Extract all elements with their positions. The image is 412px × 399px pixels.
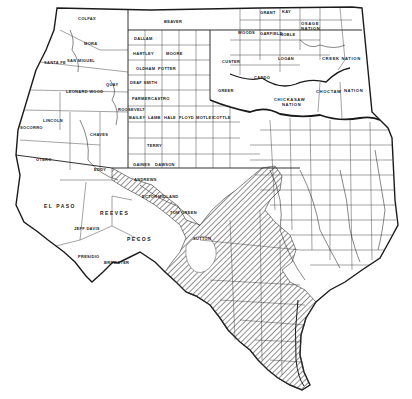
label-eddy: EDDY bbox=[94, 168, 106, 172]
label-beaver: BEAVER bbox=[164, 20, 182, 24]
label-greer: GREER bbox=[218, 89, 234, 93]
label-leonard-wood: LEONARD WOOD bbox=[66, 90, 103, 94]
label-lamb: LAMB bbox=[148, 116, 161, 120]
label-castro: CASTRO bbox=[151, 97, 170, 101]
label-caddo: CADDO bbox=[254, 76, 270, 80]
label-custer: CUSTER bbox=[222, 60, 240, 64]
label-colfax: COLFAX bbox=[78, 17, 96, 21]
label-moore: MOORE bbox=[166, 52, 183, 56]
label-pecos: PECOS bbox=[127, 237, 152, 242]
land-outline bbox=[16, 7, 398, 390]
label-jeff-davis: JEFF DAVIS bbox=[74, 227, 100, 231]
label-midland: MIDLAND bbox=[158, 195, 179, 199]
label-hale: HALE bbox=[164, 116, 176, 120]
label-grant: GRANT bbox=[260, 11, 276, 15]
label-logan: LOGAN bbox=[278, 57, 294, 61]
label-deaf-smith: DEAF SMITH bbox=[130, 81, 157, 85]
label-gaines: GAINES bbox=[133, 163, 150, 167]
label-creek-nation: CREEK NATION bbox=[322, 57, 361, 61]
label-cottle: COTTLE bbox=[213, 116, 231, 120]
label-terry: TERRY bbox=[147, 144, 162, 148]
label-reeves: REEVES bbox=[100, 211, 129, 216]
label-noble: NOBLE bbox=[280, 33, 296, 37]
label-chaves: CHAVES bbox=[90, 133, 108, 137]
label-ector: ECTOR bbox=[142, 195, 157, 199]
label-otero: OTERO bbox=[36, 158, 52, 162]
label-osage-nation: NATION bbox=[301, 27, 320, 31]
label-tom-green: TOM GREEN bbox=[170, 211, 197, 215]
label-presidio: PRESIDIO bbox=[78, 255, 100, 259]
label-woods: WOODS bbox=[238, 31, 255, 35]
label-socorro: SOCORRO bbox=[20, 126, 43, 130]
label-hartley: HARTLEY bbox=[133, 52, 154, 56]
label-san-miguel: SAN MIGUEL bbox=[67, 59, 95, 63]
label-roosevelt: ROOSEVELT bbox=[118, 108, 145, 112]
label-el-paso: EL PASO bbox=[44, 204, 76, 209]
label-dallam: DALLAM bbox=[134, 37, 153, 41]
label-sutton: SUTTON bbox=[193, 237, 211, 241]
label-quay: QUAY bbox=[106, 83, 118, 87]
label-dawson: DAWSON bbox=[155, 163, 175, 167]
label-choctaw-nation: NATION bbox=[344, 89, 363, 93]
map-container: CREEK NATION CHOCTAW NATION CHICKASAW NA… bbox=[0, 0, 412, 399]
label-parmer: PARMER bbox=[132, 97, 151, 101]
label-kay: KAY bbox=[282, 10, 291, 14]
label-oldham: OLDHAM bbox=[136, 67, 155, 71]
label-potter: POTTER bbox=[158, 67, 176, 71]
label-lincoln: LINCOLN bbox=[43, 119, 63, 123]
label-santa-fe: SANTA FE bbox=[44, 61, 66, 65]
label-chickasaw-nation: NATION bbox=[282, 103, 301, 107]
label-andrews: ANDREWS bbox=[134, 178, 157, 182]
label-motley: MOTLEY bbox=[196, 116, 214, 120]
label-mora: MORA bbox=[84, 42, 97, 46]
label-choctaw: CHOCTAW bbox=[316, 90, 342, 94]
label-brewster: BREWSTER bbox=[104, 261, 129, 265]
label-floyd: FLOYD bbox=[179, 116, 194, 120]
label-bailey: BAILEY bbox=[129, 116, 145, 120]
